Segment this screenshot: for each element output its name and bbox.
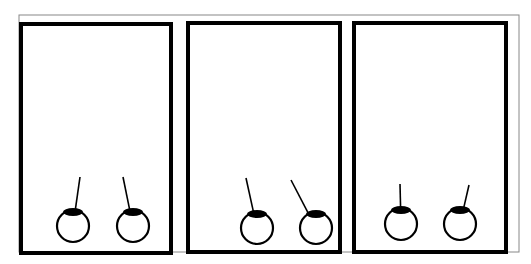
bob-cap: [450, 206, 470, 214]
bob-cap: [123, 208, 143, 216]
panel-2: [188, 23, 340, 252]
panel-frame: [354, 23, 506, 252]
bob-cap: [391, 206, 411, 214]
panel-1: [21, 24, 171, 253]
pendulum-string: [400, 184, 401, 208]
panel-3: [354, 23, 506, 252]
diagram-canvas: [0, 0, 531, 264]
bob-cap: [247, 210, 267, 218]
pendulum-diagram: [0, 0, 531, 264]
panel-frame: [21, 24, 171, 253]
bob-cap: [306, 210, 326, 218]
bob-cap: [63, 208, 83, 216]
